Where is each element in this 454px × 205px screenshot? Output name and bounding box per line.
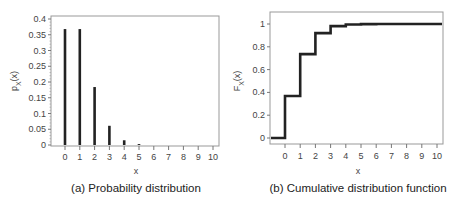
stem (138, 144, 141, 145)
x-tick-label: 7 (166, 152, 171, 162)
y-tick-label: 0.2 (33, 77, 46, 87)
x-tick-label: 6 (374, 151, 379, 161)
y-tick-label: 0 (260, 133, 265, 143)
y-tick-label: 0.25 (28, 61, 46, 71)
x-tick-label: 9 (419, 151, 424, 161)
y-tick-label: 0.4 (33, 14, 46, 24)
y-tick-label: 0.8 (252, 42, 265, 52)
stem (64, 29, 67, 145)
x-tick-label: 10 (208, 152, 218, 162)
stem (93, 87, 96, 145)
pmf-x-axis: 012345678910 (62, 146, 218, 162)
cdf-y-axis: 00.20.40.60.81 (252, 19, 270, 143)
cdf-caption: (b) Cumulative distribution function (269, 182, 446, 194)
x-tick-label: 5 (136, 152, 141, 162)
pmf-y-axis: 00.050.10.150.20.250.30.350.4 (28, 14, 51, 150)
figure: 00.050.10.150.20.250.30.350.4 0123456789… (0, 0, 454, 205)
cdf-step-line (271, 24, 442, 138)
y-tick-label: 0.2 (252, 110, 265, 120)
stem (108, 126, 111, 145)
x-tick-label: 8 (404, 151, 409, 161)
y-tick-label: 0.4 (252, 87, 265, 97)
x-tick-label: 7 (389, 151, 394, 161)
x-tick-label: 4 (122, 152, 127, 162)
y-tick-label: 0.35 (28, 30, 46, 40)
y-tick-label: 0.05 (28, 124, 46, 134)
y-tick-label: 0.6 (252, 65, 265, 75)
x-tick-label: 1 (298, 151, 303, 161)
pmf-plot-frame (51, 16, 219, 146)
cdf-x-axis: 012345678910 (282, 144, 442, 161)
pmf-x-axis-label: x (134, 166, 139, 176)
cdf-y-axis-label: FX(x) (232, 71, 245, 92)
x-tick-label: 8 (181, 152, 186, 162)
stem (123, 140, 126, 145)
x-tick-label: 2 (92, 152, 97, 162)
y-tick-label: 0.3 (33, 46, 46, 56)
x-tick-label: 3 (328, 151, 333, 161)
x-tick-label: 3 (107, 152, 112, 162)
x-tick-label: 10 (432, 151, 442, 161)
y-tick-label: 1 (260, 19, 265, 29)
cdf-x-axis-label: x (356, 166, 361, 176)
pmf-y-axis-label: pX(x) (9, 71, 22, 91)
x-tick-label: 9 (196, 152, 201, 162)
x-tick-label: 0 (62, 152, 67, 162)
x-tick-label: 5 (358, 151, 363, 161)
x-tick-label: 1 (77, 152, 82, 162)
y-tick-label: 0.15 (28, 93, 46, 103)
x-tick-label: 6 (151, 152, 156, 162)
x-tick-label: 2 (313, 151, 318, 161)
y-tick-label: 0 (41, 140, 46, 150)
pmf-chart: 00.050.10.150.20.250.30.350.4 0123456789… (9, 14, 219, 194)
pmf-stems (64, 29, 141, 145)
x-tick-label: 4 (343, 151, 348, 161)
y-tick-label: 0.1 (33, 109, 46, 119)
x-tick-label: 0 (282, 151, 287, 161)
pmf-caption: (a) Probability distribution (71, 182, 201, 194)
stem (79, 29, 82, 145)
cdf-plot-frame (270, 12, 443, 144)
cdf-chart: 00.20.40.60.81 012345678910 FX(x) x (b) … (232, 12, 447, 194)
